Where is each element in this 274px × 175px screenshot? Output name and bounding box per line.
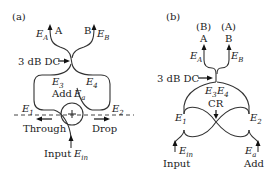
waveguide-a-output [204, 48, 216, 74]
arrow-through-icon [36, 117, 42, 122]
field-e1-label: E1 [174, 112, 187, 126]
field-e2-label: E2 [249, 112, 262, 126]
panel-b: (b) (B) (A) A B EA EB 3 dB DC E3 E4 CR E… [157, 11, 265, 169]
arrow-b-icon [92, 24, 97, 30]
crossing-loop-right [216, 107, 249, 137]
arrow-drop-icon [104, 117, 110, 122]
field-e4-label: E4 [216, 85, 229, 99]
panel-a: (a) EA A B EB 3 dB DC [12, 11, 134, 162]
field-ea-add-label: Ea [73, 88, 86, 102]
dc-pointer-icon [207, 76, 213, 81]
port-b-label: B [84, 25, 91, 36]
waveguide-b-output [217, 48, 229, 74]
arrow-input-icon [173, 140, 178, 146]
field-eb-label: EB [96, 28, 109, 42]
loop-right-arm [72, 64, 110, 110]
input-label: Input [44, 148, 71, 159]
diagram-canvas: (a) EA A B EB 3 dB DC [0, 0, 274, 175]
drop-label: Drop [92, 123, 117, 134]
dc-pointer-icon [64, 59, 70, 64]
arrow-input-icon [69, 135, 74, 141]
input-label: Input [163, 158, 190, 169]
field-eb-label: EB [230, 50, 243, 64]
field-ein-label: Ein [178, 145, 194, 159]
coupler-junction [71, 58, 72, 64]
port-a-label: A [199, 33, 208, 44]
add-label: Add [51, 88, 73, 99]
through-label: Through [23, 123, 67, 134]
field-ein-label: Ein [73, 148, 89, 162]
coupler-label: 3 dB DC [157, 73, 199, 84]
field-e3-label: E3 [204, 85, 217, 99]
arrow-add-icon [256, 140, 261, 146]
field-e4-label: E4 [85, 76, 98, 90]
panel-a-label: (a) [12, 11, 26, 22]
field-ea-label: EA [189, 50, 202, 64]
coupler-label: 3 dB DC [18, 56, 60, 67]
arrow-a-icon [202, 44, 207, 50]
panel-b-label: (b) [166, 11, 180, 22]
arrow-a-icon [48, 24, 53, 30]
field-ea-label: EA [35, 28, 48, 42]
port-a-label: A [54, 25, 63, 36]
port-b-paren-label: (A) [221, 21, 236, 32]
port-b-label: B [225, 33, 232, 44]
field-ea-add-label: Ea [244, 145, 257, 159]
port-a-paren-label: (B) [196, 21, 211, 32]
cr-pointer-icon [214, 114, 219, 119]
cr-label: CR [208, 98, 224, 109]
add-label: Add [243, 158, 265, 169]
crossing-loop-left [184, 107, 216, 137]
loop-left-arm [34, 64, 71, 110]
